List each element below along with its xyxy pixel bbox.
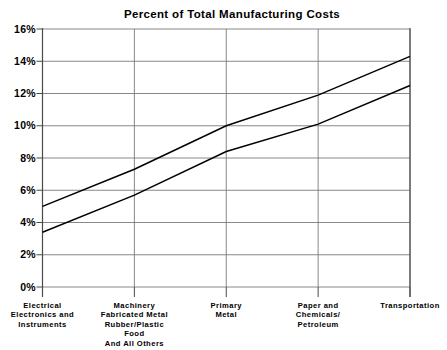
axis-tick-marks — [37, 29, 411, 297]
y-axis-tick-label: 16% — [0, 24, 36, 34]
x-axis-category-label: Machinery Fabricated Metal Rubber/Plasti… — [84, 301, 184, 348]
x-axis-category-label: Paper and Chemicals/ Petroleum — [268, 301, 368, 329]
y-axis-tick-label: 10% — [0, 120, 36, 130]
chart-container: Percent of Total Manufacturing Costs 0%2… — [0, 0, 447, 350]
y-axis-tick-label: 12% — [0, 88, 36, 98]
y-axis-tick-label: 4% — [0, 217, 36, 227]
y-axis-tick-label: 8% — [0, 153, 36, 163]
y-axis-tick-label: 6% — [0, 185, 36, 195]
x-axis-category-label: Primary Metal — [176, 301, 276, 320]
y-axis-tick-label: 0% — [0, 282, 36, 292]
y-axis-tick-label: 2% — [0, 249, 36, 259]
x-axis-category-label: Electrical Electronics and Instruments — [0, 301, 93, 329]
y-axis-tick-label: 14% — [0, 56, 36, 66]
x-axis-category-label: Transportation — [360, 301, 447, 310]
chart-plot-area — [0, 0, 447, 350]
